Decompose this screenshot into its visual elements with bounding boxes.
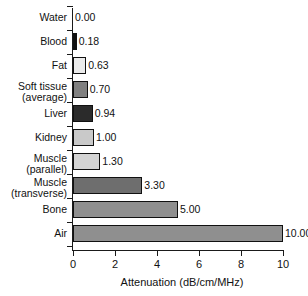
plot-area: Water0.00Blood0.18Fat0.63Soft tissue (av… (0, 0, 308, 296)
x-axis-tick-label: 10 (271, 258, 295, 271)
x-axis-tick (157, 251, 158, 256)
x-axis-tick-label: 8 (229, 258, 253, 271)
category-label: Soft tissue (average) (0, 81, 67, 103)
y-axis-tick (67, 150, 73, 151)
category-label: Fat (0, 60, 67, 71)
bar-row: Liver0.94 (0, 105, 308, 129)
bar-row: Air10.00 (0, 225, 308, 249)
y-axis-tick (67, 6, 73, 7)
bar (73, 81, 88, 98)
bar-value-label: 3.30 (144, 177, 164, 194)
bar-row: Soft tissue (average)0.70 (0, 81, 308, 105)
y-axis-tick (67, 246, 73, 247)
bar-value-label: 0.00 (75, 9, 95, 26)
bar-row: Muscle (parallel)1.30 (0, 153, 308, 177)
x-axis-title-text: Attenuation (dB/cm/MHz) (65, 276, 244, 288)
category-label: Muscle (transverse) (0, 177, 67, 199)
bar-row: Blood0.18 (0, 33, 308, 57)
bar-row: Water0.00 (0, 9, 308, 33)
y-axis-tick (67, 198, 73, 199)
category-label: Water (0, 12, 67, 23)
bar (73, 33, 77, 50)
x-axis-tick-label: 0 (61, 258, 85, 271)
bar-row: Kidney1.00 (0, 129, 308, 153)
x-axis-title: Attenuation (dB/cm/MHz) (0, 276, 308, 288)
y-axis-tick (67, 54, 73, 55)
bar (73, 105, 93, 122)
x-axis-tick-label: 4 (145, 258, 169, 271)
y-axis-tick (67, 102, 73, 103)
y-axis-tick (67, 222, 73, 223)
bar-value-label: 0.94 (95, 105, 115, 122)
y-axis-tick (67, 126, 73, 127)
category-label: Bone (0, 204, 67, 215)
bar (73, 177, 142, 194)
x-axis-line (72, 250, 284, 251)
bar-value-label: 1.30 (102, 153, 122, 170)
bar-value-label: 1.00 (96, 129, 116, 146)
x-axis-tick (241, 251, 242, 256)
bar-row: Bone5.00 (0, 201, 308, 225)
bar (73, 153, 100, 170)
x-axis-tick-label: 2 (103, 258, 127, 271)
bar-value-label: 0.70 (90, 81, 110, 98)
x-axis-tick (199, 251, 200, 256)
bar (73, 57, 86, 74)
bar-value-label: 5.00 (180, 201, 200, 218)
bar-row: Muscle (transverse)3.30 (0, 177, 308, 201)
x-axis-tick (115, 251, 116, 256)
y-axis-tick (67, 174, 73, 175)
category-label: Air (0, 228, 67, 239)
category-label: Liver (0, 108, 67, 119)
bar-value-label: 0.63 (88, 57, 108, 74)
bar (73, 129, 94, 146)
x-axis-tick (73, 251, 74, 256)
x-axis-tick (283, 251, 284, 256)
category-label: Muscle (parallel) (0, 153, 67, 175)
bar (73, 201, 178, 218)
attenuation-bar-chart: Water0.00Blood0.18Fat0.63Soft tissue (av… (0, 0, 308, 296)
bar-value-label: 10.00 (285, 225, 308, 242)
category-label: Blood (0, 36, 67, 47)
bar (73, 225, 283, 242)
category-label: Kidney (0, 132, 67, 143)
bar-value-label: 0.18 (79, 33, 99, 50)
y-axis-tick (67, 30, 73, 31)
x-axis-tick-label: 6 (187, 258, 211, 271)
bar-row: Fat0.63 (0, 57, 308, 81)
y-axis-tick (67, 78, 73, 79)
